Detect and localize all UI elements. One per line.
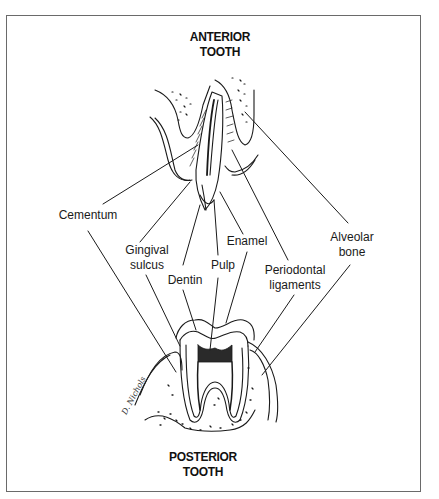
leader-cementum-anterior (103, 145, 198, 204)
leader-dentin-anterior (183, 205, 200, 265)
label-gingival-line1: Gingival (112, 243, 182, 258)
anterior-title-line2: TOOTH (170, 45, 270, 60)
leader-pulp-anterior (214, 200, 218, 255)
label-dentin: Dentin (160, 273, 210, 288)
leader-gingival-anterior (140, 182, 190, 242)
anterior-title-line1: ANTERIOR (170, 30, 270, 45)
leader-dentin-posterior (183, 290, 196, 330)
leader-enamel-anterior (220, 192, 243, 234)
posterior-title-line2: TOOTH (153, 465, 253, 480)
posterior-title-line1: POSTERIOR (153, 450, 253, 465)
posterior-tooth-title: POSTERIOR TOOTH (153, 450, 253, 480)
label-gingival-sulcus: Gingival sulcus (112, 243, 182, 273)
anterior-tooth-title: ANTERIOR TOOTH (170, 30, 270, 60)
anterior-tooth-drawing (150, 78, 258, 210)
label-cementum: Cementum (48, 208, 128, 223)
label-periodontal-line2: ligaments (255, 278, 335, 293)
label-enamel-text: Enamel (222, 234, 272, 249)
label-pulp: Pulp (203, 258, 243, 273)
label-periodontal-ligaments: Periodontal ligaments (255, 263, 335, 293)
label-pulp-text: Pulp (203, 258, 243, 273)
label-periodontal-line1: Periodontal (255, 263, 335, 278)
label-gingival-line2: sulcus (112, 258, 182, 273)
leader-pulp-posterior (210, 278, 218, 350)
label-enamel: Enamel (222, 234, 272, 249)
leader-periodontal-posterior (255, 295, 294, 352)
label-alveolar-line2: bone (322, 245, 382, 260)
label-cementum-text: Cementum (48, 208, 128, 223)
label-dentin-text: Dentin (160, 273, 210, 288)
posterior-tooth-drawing (135, 320, 278, 432)
label-alveolar-line1: Alveolar (322, 230, 382, 245)
label-alveolar-bone: Alveolar bone (322, 230, 382, 260)
